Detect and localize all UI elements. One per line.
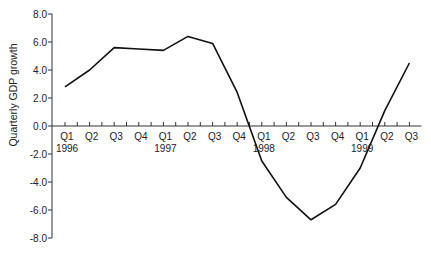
- x-tick-label: Q4: [134, 131, 148, 142]
- x-tick-label: Q2: [380, 131, 394, 142]
- x-tick-label: Q3: [208, 131, 222, 142]
- x-tick-label: Q1: [159, 131, 173, 142]
- y-tick-label: 0.0: [33, 121, 47, 132]
- x-tick-label: Q1: [356, 131, 370, 142]
- y-tick-label: 6.0: [33, 37, 47, 48]
- y-axis: 8.06.04.02.00.0-2.0-4.0-6.0-8.0: [30, 9, 52, 244]
- y-tick-label: 8.0: [33, 9, 47, 20]
- x-tick-label: Q3: [405, 131, 419, 142]
- y-tick-label: -2.0: [30, 149, 48, 160]
- y-tick-label: 2.0: [33, 93, 47, 104]
- x-tick-label: Q4: [331, 131, 345, 142]
- x-tick-label: Q2: [282, 131, 296, 142]
- y-tick-label: -4.0: [30, 177, 48, 188]
- x-tick-label: Q2: [183, 131, 197, 142]
- x-axis: Q1Q2Q3Q4Q1Q2Q3Q4Q1Q2Q3Q4Q1Q2Q31996199719…: [52, 122, 421, 154]
- x-year-label: 1996: [56, 143, 79, 154]
- x-tick-label: Q1: [60, 131, 74, 142]
- y-axis-title: Quarterly GDP growth: [7, 43, 19, 146]
- x-tick-label: Q3: [306, 131, 320, 142]
- gdp-growth-line-chart: Quarterly GDP growth 8.06.04.02.00.0-2.0…: [0, 0, 431, 255]
- x-year-label: 1997: [154, 143, 177, 154]
- y-tick-label: 4.0: [33, 65, 47, 76]
- y-tick-label: -6.0: [30, 205, 48, 216]
- x-tick-label: Q3: [110, 131, 124, 142]
- x-tick-label: Q4: [233, 131, 247, 142]
- x-tick-label: Q2: [85, 131, 99, 142]
- y-tick-label: -8.0: [30, 233, 48, 244]
- gdp-growth-series-line: [65, 36, 409, 219]
- x-tick-label: Q1: [257, 131, 271, 142]
